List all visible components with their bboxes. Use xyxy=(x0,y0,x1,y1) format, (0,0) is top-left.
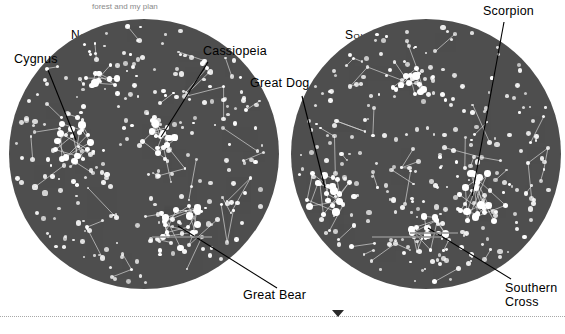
star-point xyxy=(87,139,94,146)
star-point xyxy=(153,203,156,206)
label-cygnus: Cygnus xyxy=(14,52,58,66)
constellation-line xyxy=(35,128,60,132)
star-point xyxy=(200,61,205,66)
star-point xyxy=(534,134,539,139)
star-point xyxy=(414,225,419,230)
star-point xyxy=(232,58,237,63)
star-point xyxy=(155,146,159,150)
star-point xyxy=(495,171,499,175)
star-point xyxy=(546,188,550,192)
star-point xyxy=(92,152,94,154)
star-point xyxy=(135,259,139,263)
label-great-dog: Great Dog xyxy=(250,76,309,90)
star-point xyxy=(57,130,64,137)
star-point xyxy=(400,205,405,210)
star-point xyxy=(144,281,147,284)
star-point xyxy=(444,258,448,262)
star-point xyxy=(414,170,417,173)
scan-streak xyxy=(372,236,442,238)
footer-caret-icon xyxy=(332,310,344,317)
label-great-bear: Great Bear xyxy=(243,288,306,302)
star-point xyxy=(62,245,66,249)
star-point xyxy=(373,242,376,245)
star-point xyxy=(420,86,426,92)
star-point xyxy=(515,221,518,224)
star-point xyxy=(469,143,472,146)
constellation-line xyxy=(435,34,455,51)
constellation-lines xyxy=(291,19,561,289)
star-point xyxy=(449,103,453,107)
star-point xyxy=(434,204,439,209)
star-point xyxy=(122,126,126,130)
star-point xyxy=(105,32,108,35)
star-point xyxy=(356,194,358,196)
star-point xyxy=(442,133,446,137)
star-point xyxy=(438,253,441,256)
star-point xyxy=(164,94,167,97)
star-point xyxy=(83,256,85,258)
star-point xyxy=(173,137,177,141)
star-point xyxy=(76,220,81,225)
star-point xyxy=(208,253,213,258)
star-point xyxy=(101,180,106,185)
star-point xyxy=(148,239,152,243)
star-point xyxy=(80,239,85,244)
star-point xyxy=(460,230,465,235)
star-point xyxy=(490,76,493,79)
star-point xyxy=(345,64,348,67)
star-point xyxy=(524,191,528,195)
star-point xyxy=(219,257,223,261)
star-point xyxy=(409,261,411,263)
star-point xyxy=(258,204,263,209)
star-point xyxy=(137,38,142,43)
star-point xyxy=(376,186,378,188)
star-point xyxy=(446,186,448,188)
star-point xyxy=(379,268,382,271)
star-point xyxy=(306,203,313,210)
star-point xyxy=(96,71,101,76)
constellation-line xyxy=(320,184,323,215)
star-point xyxy=(457,192,461,196)
star-point xyxy=(455,160,458,163)
star-point xyxy=(459,245,464,250)
star-point xyxy=(71,158,77,164)
star-point xyxy=(195,158,198,161)
star-point xyxy=(393,241,398,246)
star-point xyxy=(464,231,469,236)
star-point xyxy=(94,42,96,44)
constellation-line xyxy=(371,243,395,260)
star-point xyxy=(420,69,423,72)
star-point xyxy=(98,254,100,256)
star-point xyxy=(102,149,105,152)
star-point xyxy=(405,39,409,43)
star-point xyxy=(104,247,109,252)
star-point xyxy=(165,135,171,141)
star-point xyxy=(104,172,109,177)
star-point xyxy=(530,184,533,187)
star-point xyxy=(253,160,257,164)
label-southern-cross-line2: Cross xyxy=(505,295,539,309)
star-point xyxy=(305,198,309,202)
star-point xyxy=(84,230,86,232)
star-point xyxy=(165,230,169,234)
star-point xyxy=(540,156,544,160)
star-point xyxy=(453,32,457,36)
star-point xyxy=(45,67,49,71)
star-point xyxy=(235,201,239,205)
star-point xyxy=(114,75,121,82)
star-point xyxy=(382,133,387,138)
star-point xyxy=(484,170,491,177)
star-point xyxy=(398,82,404,88)
star-point xyxy=(452,73,457,78)
star-point xyxy=(179,71,184,76)
star-point xyxy=(493,178,497,182)
star-point xyxy=(193,116,197,120)
star-point xyxy=(386,190,389,193)
star-chart-figure: forest and my plan Northern Hemisphere S… xyxy=(0,0,565,334)
star-point xyxy=(351,194,356,199)
star-point xyxy=(19,180,24,185)
star-point xyxy=(109,63,113,67)
constellation-line xyxy=(473,105,490,143)
star-point xyxy=(234,107,237,110)
star-point xyxy=(497,53,500,56)
